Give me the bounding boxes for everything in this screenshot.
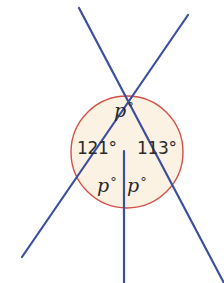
angle-label-bottom-left: p° — [97, 175, 117, 195]
angle-label-right: 113° — [137, 140, 177, 157]
angle-variable: p — [114, 99, 126, 121]
angle-label-top: p° — [114, 100, 134, 120]
angle-variable: p — [127, 174, 139, 196]
degree-symbol: ° — [127, 99, 134, 114]
degree-symbol: ° — [140, 174, 147, 189]
degree-symbol: ° — [110, 174, 117, 189]
angle-variable: p — [97, 174, 109, 196]
angle-label-bottom-right: p° — [127, 175, 147, 195]
angle-label-left: 121° — [77, 140, 117, 157]
